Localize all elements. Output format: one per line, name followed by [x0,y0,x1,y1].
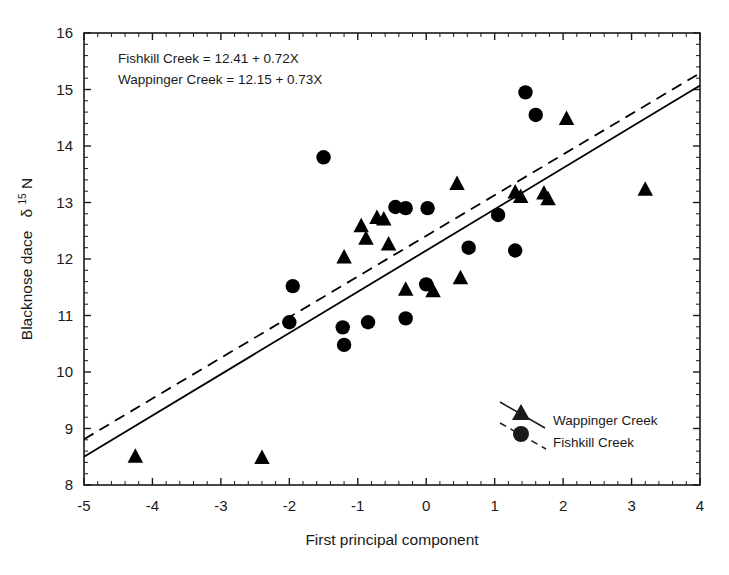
x-tick-label: 1 [490,497,498,514]
data-point-triangle [559,111,575,126]
y-tick-label: 12 [56,250,73,267]
y-tick-label: 11 [57,307,73,324]
y-axis-tick-labels: 8910111213141516 [56,24,73,493]
data-point-circle [419,277,433,291]
legend-label-wappinger-creek: Wappinger Creek [553,413,658,428]
data-point-triangle [336,249,352,263]
data-point-circle [282,315,296,329]
data-point-triangle [358,230,374,245]
y-axis-title-superscript: 15 [17,193,28,205]
legend-triangle-marker [512,404,530,420]
y-axis-title-element: N [18,178,35,189]
chart-legend: Wappinger Creek Fishkill Creek [500,402,658,450]
x-tick-label: -4 [146,497,159,514]
data-point-circle [398,311,412,325]
regression-line-fishkill-creek [84,73,700,439]
data-point-circle [508,243,522,257]
x-tick-label: 3 [627,497,635,514]
legend-label-fishkill-creek: Fishkill Creek [553,435,634,450]
regression-line-wappinger-creek [84,86,700,457]
data-point-triangle [398,281,414,296]
data-point-circle [316,150,330,164]
data-point-triangle [453,270,469,285]
y-tick-label: 8 [65,476,73,493]
x-tick-label: -3 [214,497,227,514]
legend-circle-marker [513,426,529,442]
data-point-triangle [637,181,653,196]
data-point-circle [336,320,350,334]
regression-lines [84,73,700,457]
data-point-triangle [381,236,397,251]
y-tick-label: 9 [65,420,73,437]
annotation-fishkill-equation: Fishkill Creek = 12.41 + 0.72X [118,51,299,66]
y-axis-title: Blacknose dace δ 15 N [12,178,35,340]
data-point-triangle [254,450,270,465]
chart-figure: -5-4-3-2-101234 8910111213141516 Fishkil… [0,0,729,575]
series-fishkill-creek-points [282,85,543,352]
y-axis-title-main: Blacknose dace [18,231,35,340]
x-tick-label: 2 [559,497,567,514]
x-tick-label: 0 [422,497,430,514]
y-tick-label: 10 [56,363,73,380]
svg-text:Blacknose dace δ: Blacknose dace δ 15 N [12,178,35,340]
data-point-circle [361,315,375,329]
data-point-triangle [449,175,465,190]
data-point-circle [461,241,475,255]
x-axis-tick-labels: -5-4-3-2-101234 [77,497,704,514]
x-tick-label: -1 [351,497,364,514]
x-tick-label: -5 [77,497,90,514]
y-tick-label: 14 [56,137,73,154]
data-point-triangle [128,448,143,463]
data-point-circle [398,201,412,215]
annotation-wappinger-equation: Wappinger Creek = 12.15 + 0.73X [118,72,322,87]
data-point-circle [491,208,505,222]
scatter-plot-svg: -5-4-3-2-101234 8910111213141516 Fishkil… [0,0,729,575]
data-point-circle [529,108,543,122]
data-point-circle [518,85,532,99]
data-point-circle [420,201,434,215]
x-tick-label: -2 [283,497,296,514]
y-tick-label: 15 [56,81,73,98]
y-axis-minor-ticks [84,44,700,473]
y-tick-label: 16 [56,24,73,41]
y-axis-title-delta: δ [18,209,35,218]
series-wappinger-creek-points [128,111,653,465]
data-point-circle [337,338,351,352]
data-point-triangle [353,218,369,233]
data-point-circle [286,279,300,293]
x-axis-title: First principal component [305,531,479,548]
y-tick-label: 13 [56,194,73,211]
x-tick-label: 4 [696,497,704,514]
